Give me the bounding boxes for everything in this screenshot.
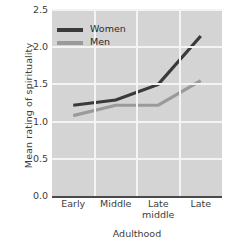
x-tick-label: Middle <box>100 198 131 209</box>
y-tick-label: 2.5 <box>33 5 48 15</box>
x-tick-label-line: Late <box>190 198 211 209</box>
x-tick-label: Latemiddle <box>142 198 174 220</box>
y-tick-label: 0.5 <box>33 154 48 164</box>
legend-item-women: Women <box>57 24 167 37</box>
x-tick-label-line: Early <box>61 198 85 209</box>
chart-legend: Women Men <box>57 24 167 50</box>
x-tick-label-line: middle <box>142 209 174 220</box>
y-tick-label: 0.0 <box>33 191 48 201</box>
gridline-vertical <box>179 10 181 196</box>
x-axis-title: Adulthood <box>52 228 222 239</box>
y-tick-label: 1.0 <box>33 117 48 127</box>
y-tick-label: 1.5 <box>33 79 48 89</box>
x-tick-label-line: Middle <box>100 198 131 209</box>
legend-item-men: Men <box>57 37 167 50</box>
spirituality-line-chart: Mean rating of spirituality 0.00.51.01.5… <box>0 0 231 246</box>
x-tick-label-line: Late <box>148 198 169 209</box>
x-tick-label: Late <box>190 198 211 209</box>
x-tick-label: Early <box>61 198 85 209</box>
legend-label-men: Men <box>90 36 110 47</box>
legend-label-women: Women <box>90 23 126 34</box>
y-axis-tick-labels: 0.00.51.01.52.02.5 <box>26 8 48 198</box>
x-axis-tick-labels: EarlyMiddleLatemiddleLate <box>52 198 222 228</box>
legend-swatch-women <box>57 28 83 32</box>
y-tick-label: 2.0 <box>33 42 48 52</box>
legend-swatch-men <box>57 41 83 45</box>
